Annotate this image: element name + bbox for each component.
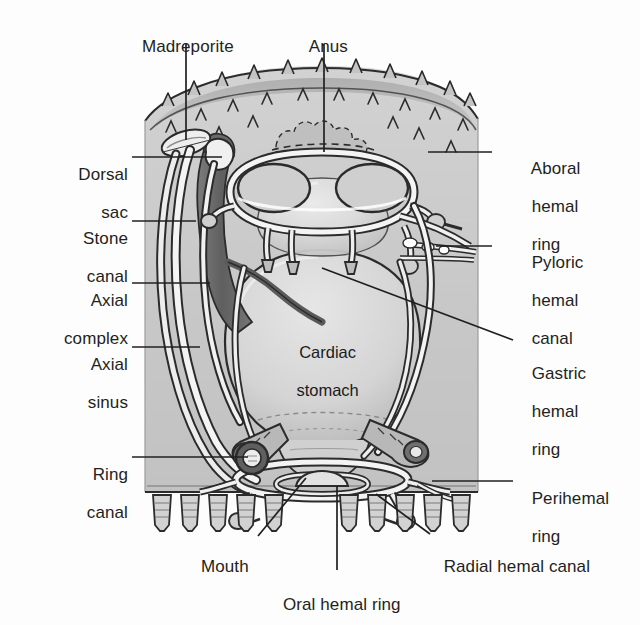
label-axial-complex-line1: Axial — [91, 291, 128, 310]
label-mouth: Mouth — [170, 538, 270, 576]
label-perihemal-ring: Perihemal ring — [522, 470, 640, 546]
figure-canvas: Madreporite Anus Dorsal sac Stone canal … — [0, 0, 640, 625]
label-madreporite: Madreporite — [88, 18, 278, 56]
label-ring-canal-line2: canal — [87, 503, 128, 522]
label-oral-hemal-ring: Oral hemal ring — [252, 576, 422, 614]
ring-canal — [236, 442, 268, 474]
label-axial-sinus: Axial sinus — [0, 336, 128, 412]
label-axial-sinus-line2: sinus — [88, 393, 128, 412]
label-pyloric-hemal-canal: Pyloric hemal canal — [522, 234, 640, 348]
label-radial-hemal-canal: Radial hemal canal — [434, 538, 640, 576]
label-madreporite-text: Madreporite — [142, 37, 234, 56]
label-pyloric-hemal-canal-line2: hemal — [532, 291, 579, 310]
label-aboral-hemal-ring-line2: hemal — [532, 197, 579, 216]
label-anus-text: Anus — [309, 37, 348, 56]
label-gastric-hemal-ring-line3: ring — [532, 440, 561, 459]
label-ring-canal-line1: Ring — [93, 465, 128, 484]
label-cardiac-stomach-line1: Cardiac — [299, 343, 356, 361]
label-dorsal-sac-line1: Dorsal — [78, 165, 128, 184]
label-aboral-hemal-ring-line1: Aboral — [531, 159, 581, 178]
label-cardiac-stomach-line2: stomach — [296, 381, 358, 399]
tube-feet-left — [153, 495, 283, 531]
label-stone-canal-line1: Stone — [83, 229, 128, 248]
label-axial-sinus-line1: Axial — [91, 355, 128, 374]
label-oral-hemal-ring-text: Oral hemal ring — [283, 595, 401, 614]
label-gastric-hemal-ring: Gastric hemal ring — [522, 345, 640, 459]
label-cardiac-stomach: Cardiac stomach — [262, 324, 384, 400]
label-perihemal-ring-line1: Perihemal — [532, 489, 609, 508]
label-mouth-text: Mouth — [201, 557, 249, 576]
label-gastric-hemal-ring-line2: hemal — [532, 402, 579, 421]
label-gastric-hemal-ring-line1: Gastric — [532, 364, 587, 383]
label-anus: Anus — [260, 18, 388, 56]
label-radial-hemal-canal-text: Radial hemal canal — [444, 557, 590, 576]
label-pyloric-hemal-canal-line1: Pyloric — [532, 253, 584, 272]
label-ring-canal: Ring canal — [0, 446, 128, 522]
